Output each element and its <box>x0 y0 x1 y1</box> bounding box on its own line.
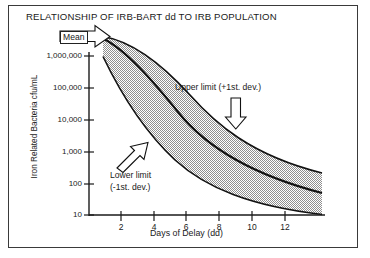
y-axis <box>84 52 94 216</box>
x-tick-label-12: 12 <box>275 222 295 232</box>
lower-limit-arrow-icon <box>117 143 148 173</box>
upper-limit-annotation: Upper limit (+1st. dev.) <box>175 82 261 93</box>
x-axis-label: Days of Delay (dd) <box>150 228 223 238</box>
upper-limit-arrow-icon <box>226 98 247 129</box>
x-tick-label-10: 10 <box>242 222 262 232</box>
lower-limit-annotation-line2: (-1st. dev.) <box>110 182 150 193</box>
x-axis <box>89 211 325 221</box>
x-tick-label-2: 2 <box>111 222 131 232</box>
mean-annotation-label: Mean <box>60 31 88 44</box>
figure-canvas: RELATIONSHIP OF IRB-BART dd TO IRB POPUL… <box>0 0 370 258</box>
y-axis-label: Iron Related Bacteria cfu/mL <box>30 72 39 182</box>
y-tick-label-1000000: 1,000,000 <box>20 51 82 60</box>
chart-plot <box>0 0 370 258</box>
lower-limit-annotation-line1: Lower limit <box>110 170 151 181</box>
y-tick-label-10: 10 <box>20 210 82 219</box>
